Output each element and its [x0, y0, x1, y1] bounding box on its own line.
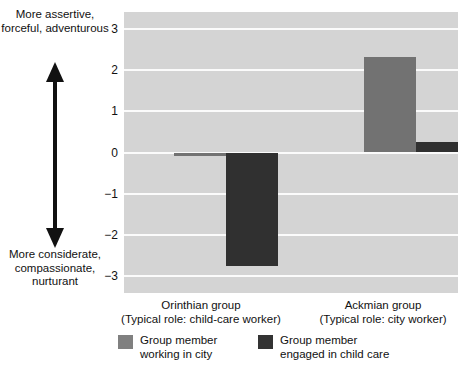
y-axis-tick-label: 3: [96, 22, 118, 36]
chart-plot-area: [124, 12, 458, 293]
bar-childcare-1: [416, 142, 458, 152]
legend-swatch-city-icon: [118, 335, 133, 349]
legend-label: Group member engaged in child care: [280, 334, 389, 361]
gridline: [124, 234, 458, 236]
bar-city-1: [364, 57, 416, 152]
y-axis-tick-label: −1: [96, 187, 118, 201]
y-axis-tick-labels: 3210−1−2−3: [94, 12, 118, 293]
category-name: Orinthian group: [118, 299, 284, 313]
legend-item-childcare: Group member engaged in child care: [258, 334, 389, 361]
y-axis-tick-label: 0: [96, 146, 118, 160]
category-sublabel: (Typical role: city worker): [300, 313, 466, 327]
gridline: [124, 28, 458, 30]
legend-item-city: Group member working in city: [118, 334, 217, 361]
legend-swatch-childcare-icon: [258, 335, 273, 349]
category-label-ackmian: Ackmian group (Typical role: city worker…: [300, 299, 466, 326]
y-axis-tick-label: 1: [96, 104, 118, 118]
chart-legend: Group member working in city Group membe…: [0, 334, 475, 368]
gridline: [124, 275, 458, 277]
legend-label: Group member working in city: [140, 334, 217, 361]
category-name: Ackmian group: [300, 299, 466, 313]
y-axis-tick-label: 2: [96, 63, 118, 77]
category-label-orinthian: Orinthian group (Typical role: child-car…: [118, 299, 284, 326]
y-axis-tick-label: −3: [96, 269, 118, 283]
bar-city-0: [174, 153, 226, 156]
category-sublabel: (Typical role: child-care worker): [118, 313, 284, 327]
bar-childcare-0: [226, 153, 278, 267]
y-axis-tick-label: −2: [96, 228, 118, 242]
gridline: [124, 193, 458, 195]
figure-caption: [4, 371, 474, 378]
